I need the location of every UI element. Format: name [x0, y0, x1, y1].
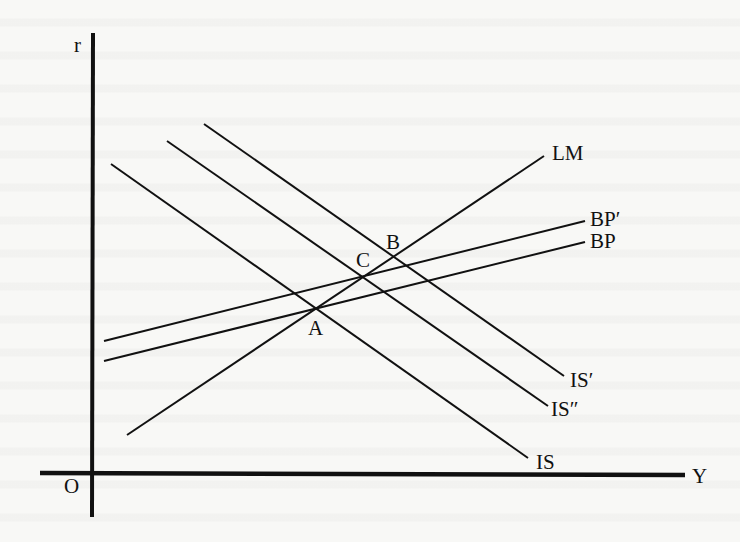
y-axis	[40, 473, 685, 475]
is-label: IS	[536, 452, 555, 473]
point-a-label: A	[308, 318, 323, 339]
bp-prime-curve	[104, 221, 585, 341]
bp-prime-label: BP′	[590, 209, 620, 230]
lm-curve	[127, 156, 544, 435]
is-prime-label: IS′	[570, 370, 593, 391]
r-axis-label: r	[74, 35, 81, 56]
diagram-canvas: r Y O LM BP′ BP IS IS″ IS′ A B C	[0, 0, 740, 542]
origin-label: O	[64, 476, 79, 497]
is-double-prime-label: IS″	[551, 399, 578, 420]
y-axis-label: Y	[692, 466, 707, 487]
point-c-label: C	[356, 250, 370, 271]
diagram-svg	[0, 0, 740, 542]
bp-label: BP	[590, 231, 616, 252]
is-prime-curve	[204, 124, 564, 376]
point-b-label: B	[386, 232, 400, 253]
r-axis	[92, 33, 93, 517]
lm-label: LM	[552, 143, 584, 164]
bp-curve	[104, 242, 585, 361]
is-double-prime-curve	[167, 141, 548, 406]
